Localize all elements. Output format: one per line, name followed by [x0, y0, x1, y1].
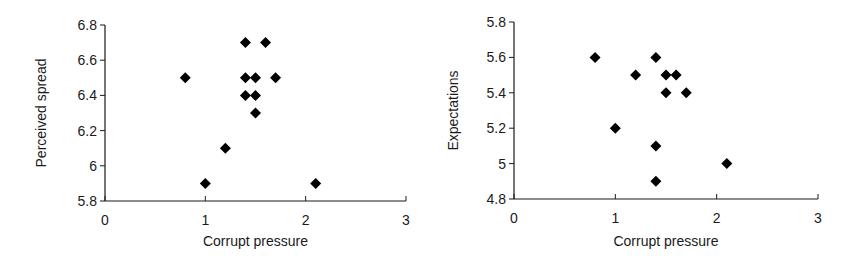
y-tick-label: 6.6: [78, 52, 98, 68]
data-point-diamond-icon: [260, 37, 271, 48]
data-point-diamond-icon: [630, 70, 641, 81]
x-axis-title: Corrupt pressure: [203, 233, 308, 249]
data-point-diamond-icon: [220, 143, 231, 154]
y-tick-label: 6.2: [78, 123, 98, 139]
data-point-diamond-icon: [661, 87, 672, 98]
y-axis-title: Expectations: [445, 70, 461, 150]
data-point-diamond-icon: [661, 70, 672, 81]
y-tick-label: 6.8: [78, 17, 98, 33]
y-tick-label: 6.4: [78, 87, 98, 103]
y-tick-label: 5.4: [487, 85, 507, 101]
data-point-diamond-icon: [250, 72, 261, 83]
y-tick-label: 5.8: [487, 14, 507, 30]
data-point-diamond-icon: [310, 178, 321, 189]
data-point-diamond-icon: [671, 70, 682, 81]
data-point-diamond-icon: [200, 178, 211, 189]
y-tick-label: 5.6: [487, 49, 507, 65]
y-tick-label: 5.8: [78, 193, 98, 209]
data-point-diamond-icon: [250, 108, 261, 119]
x-tick-label: 0: [510, 210, 518, 226]
x-tick-label: 1: [201, 212, 209, 228]
y-tick-label: 4.8: [487, 191, 507, 207]
x-tick-label: 3: [814, 210, 822, 226]
y-tick-label: 5: [498, 156, 506, 172]
data-point-diamond-icon: [250, 90, 261, 101]
scatter-chart-perceived-spread: 5.866.26.46.66.80123Corrupt pressurePerc…: [0, 0, 429, 267]
scatter-chart-expectations: 4.855.25.45.65.80123Corrupt pressureExpe…: [429, 0, 858, 267]
plot-area: 4.855.25.45.65.80123Corrupt pressureExpe…: [429, 0, 858, 267]
x-axis-title: Corrupt pressure: [613, 233, 718, 249]
x-tick-label: 2: [713, 210, 721, 226]
x-tick-label: 3: [402, 212, 410, 228]
data-point-diamond-icon: [650, 176, 661, 187]
data-point-diamond-icon: [240, 90, 251, 101]
x-tick-label: 2: [302, 212, 310, 228]
data-point-diamond-icon: [590, 52, 601, 63]
y-axis-title: Perceived spread: [33, 59, 49, 168]
data-point-diamond-icon: [270, 72, 281, 83]
y-tick-label: 6: [89, 158, 97, 174]
plot-area: 5.866.26.46.66.80123Corrupt pressurePerc…: [0, 0, 429, 267]
data-point-diamond-icon: [650, 140, 661, 151]
data-point-diamond-icon: [240, 37, 251, 48]
y-tick-label: 5.2: [487, 120, 507, 136]
data-point-diamond-icon: [681, 87, 692, 98]
data-point-diamond-icon: [610, 123, 621, 134]
data-point-diamond-icon: [240, 72, 251, 83]
data-point-diamond-icon: [721, 158, 732, 169]
data-point-diamond-icon: [180, 72, 191, 83]
data-point-diamond-icon: [650, 52, 661, 63]
x-tick-label: 0: [101, 212, 109, 228]
x-tick-label: 1: [611, 210, 619, 226]
